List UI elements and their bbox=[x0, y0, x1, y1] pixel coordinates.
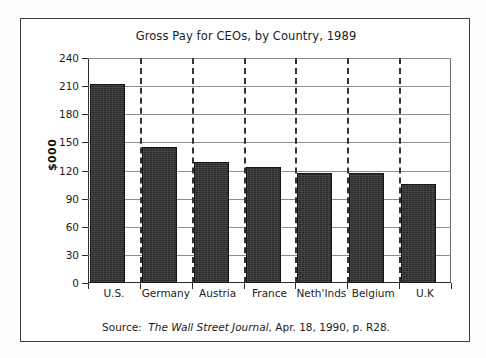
gridline bbox=[88, 86, 451, 87]
bar bbox=[401, 184, 436, 283]
y-tick-label: 240 bbox=[59, 52, 79, 64]
y-tick-label: 180 bbox=[59, 108, 79, 120]
y-tick-mark bbox=[82, 199, 88, 200]
x-tick-label: U.S. bbox=[103, 287, 124, 299]
x-tick-mark bbox=[347, 283, 348, 289]
bar bbox=[142, 147, 177, 283]
y-tick-label: 30 bbox=[66, 249, 79, 261]
x-tick-mark bbox=[192, 283, 193, 289]
gridline bbox=[88, 114, 451, 115]
bar bbox=[297, 173, 332, 283]
gridline bbox=[88, 142, 451, 143]
gridline bbox=[88, 58, 451, 59]
x-tick-label: U.K bbox=[416, 287, 434, 299]
chart-title: Gross Pay for CEOs, by Country, 1989 bbox=[21, 29, 471, 43]
source-note: Source: The Wall Street Journal, Apr. 18… bbox=[21, 321, 471, 333]
source-publication: The Wall Street Journal bbox=[148, 321, 268, 333]
x-tick-label: France bbox=[252, 287, 287, 299]
bar bbox=[246, 167, 281, 283]
y-tick-mark bbox=[82, 171, 88, 172]
x-tick-mark bbox=[88, 283, 89, 289]
y-tick-label: 60 bbox=[66, 221, 79, 233]
source-suffix: , Apr. 18, 1990, p. R28. bbox=[269, 321, 390, 333]
x-tick-label: Neth'Inds bbox=[296, 287, 346, 299]
y-tick-label: 120 bbox=[59, 165, 79, 177]
x-tick-mark bbox=[399, 283, 400, 289]
bar bbox=[90, 84, 125, 283]
y-tick-label: 90 bbox=[66, 193, 79, 205]
y-tick-mark bbox=[82, 142, 88, 143]
x-tick-mark bbox=[451, 283, 452, 289]
figure-frame: Gross Pay for CEOs, by Country, 1989 $00… bbox=[20, 18, 470, 342]
screenshot-canvas: Gross Pay for CEOs, by Country, 1989 $00… bbox=[0, 0, 486, 358]
y-tick-label: 150 bbox=[59, 136, 79, 148]
y-axis-label: $000 bbox=[46, 139, 59, 171]
y-tick-mark bbox=[82, 255, 88, 256]
x-tick-mark bbox=[244, 283, 245, 289]
y-tick-mark bbox=[82, 227, 88, 228]
y-tick-label: 0 bbox=[72, 277, 79, 289]
y-tick-mark bbox=[82, 86, 88, 87]
y-tick-mark bbox=[82, 114, 88, 115]
x-tick-label: Germany bbox=[142, 287, 190, 299]
source-prefix: Source: bbox=[102, 321, 142, 333]
bar bbox=[194, 162, 229, 283]
x-tick-label: Belgium bbox=[352, 287, 395, 299]
y-tick-mark bbox=[82, 58, 88, 59]
plot-area: 0306090120150180210240 U.S.GermanyAustri… bbox=[88, 58, 471, 283]
x-tick-label: Austria bbox=[199, 287, 236, 299]
y-tick-label: 210 bbox=[59, 80, 79, 92]
bar bbox=[349, 173, 384, 283]
